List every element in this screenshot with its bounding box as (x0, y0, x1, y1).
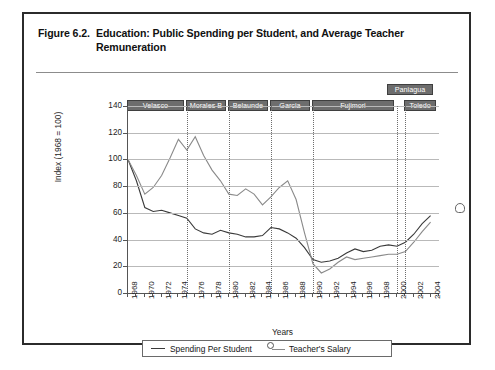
y-tick-label: 140 (94, 101, 122, 110)
legend-item-salary: Teacher's Salary (267, 343, 351, 356)
plot-area (127, 106, 439, 294)
y-tick-mark (123, 106, 127, 107)
line-swatch-icon (151, 348, 165, 349)
figure-title-text: Education: Public Spending per Student, … (96, 26, 446, 54)
x-tick-mark (362, 293, 363, 297)
chart-legend: Spending Per Student Teacher's Salary (142, 340, 392, 357)
gridline (128, 159, 439, 160)
x-tick-mark (379, 293, 380, 297)
x-tick-label: 1974 (180, 281, 189, 299)
y-tick-label: 60 (94, 208, 122, 217)
presidency-divider (187, 106, 188, 293)
x-tick-mark (278, 293, 279, 297)
x-tick-mark (413, 293, 414, 297)
x-tick-label: 2004 (433, 281, 442, 299)
x-axis-title: Years (127, 327, 438, 337)
figure-card: Figure 6.2.Education: Public Spending pe… (22, 12, 471, 345)
x-tick-label: 1982 (248, 281, 257, 299)
y-tick-mark (123, 213, 127, 214)
x-tick-label: 1996 (365, 281, 374, 299)
x-tick-mark (312, 293, 313, 297)
legend-label-spending: Spending Per Student (170, 344, 252, 354)
page-title: Figure 6.2.Education: Public Spending pe… (38, 26, 458, 54)
y-tick-mark (123, 266, 127, 267)
x-tick-mark (194, 293, 195, 297)
x-tick-label: 1998 (382, 281, 391, 299)
y-tick-mark (123, 293, 127, 294)
x-tick-mark (329, 293, 330, 297)
x-tick-mark (127, 293, 128, 297)
x-tick-label: 1972 (164, 281, 173, 299)
x-tick-label: 1992 (332, 281, 341, 299)
title-divider (36, 72, 458, 73)
y-tick-label: 20 (94, 261, 122, 270)
gridline (128, 106, 439, 107)
x-tick-mark (396, 293, 397, 297)
presidency-divider (229, 106, 230, 293)
presidency-divider (271, 106, 272, 293)
x-tick-mark (261, 293, 262, 297)
x-tick-label: 2002 (416, 281, 425, 299)
y-axis-title: Index (1968 = 100) (53, 87, 63, 207)
y-tick-label: 100 (94, 154, 122, 163)
x-tick-label: 1990 (315, 281, 324, 299)
presidency-divider (405, 106, 406, 293)
x-tick-mark (430, 293, 431, 297)
presidency-divider (397, 106, 398, 293)
y-axis-tick-labels: 020406080100120140 (90, 106, 122, 293)
x-tick-label: 1970 (147, 281, 156, 299)
x-tick-label: 1976 (197, 281, 206, 299)
x-tick-label: 1984 (264, 281, 273, 299)
y-tick-mark (123, 186, 127, 187)
x-tick-mark (144, 293, 145, 297)
x-tick-mark (346, 293, 347, 297)
circle-marker-icon (267, 345, 285, 354)
legend-label-salary: Teacher's Salary (289, 344, 351, 354)
presidency-divider (313, 106, 314, 293)
x-tick-mark (295, 293, 296, 297)
gridline (128, 186, 439, 187)
y-tick-label: 0 (94, 288, 122, 297)
teacher-salary-end-marker (455, 203, 465, 213)
y-tick-mark (123, 133, 127, 134)
x-tick-mark (245, 293, 246, 297)
president-band-paniagua: Paniagua (387, 84, 433, 95)
x-tick-mark (177, 293, 178, 297)
x-tick-label: 2000 (399, 281, 408, 299)
figure-number: Figure 6.2. (38, 26, 96, 40)
y-tick-mark (123, 159, 127, 160)
x-tick-mark (228, 293, 229, 297)
y-tick-mark (123, 240, 127, 241)
y-tick-label: 120 (94, 128, 122, 137)
series-line-teacher-s-salary (128, 137, 431, 273)
x-tick-label: 1988 (298, 281, 307, 299)
y-tick-label: 80 (94, 181, 122, 190)
series-line-spending-per-student (128, 159, 431, 262)
chart-lines (128, 106, 439, 293)
legend-item-spending: Spending Per Student (151, 343, 252, 356)
x-tick-label: 1986 (281, 281, 290, 299)
y-tick-label: 40 (94, 235, 122, 244)
gridline (128, 213, 439, 214)
gridline (128, 266, 439, 267)
x-tick-label: 1980 (231, 281, 240, 299)
x-tick-label: 1968 (130, 281, 139, 299)
x-tick-label: 1994 (349, 281, 358, 299)
x-tick-mark (211, 293, 212, 297)
x-tick-label: 1978 (214, 281, 223, 299)
x-tick-mark (161, 293, 162, 297)
gridline (128, 133, 439, 134)
gridline (128, 240, 439, 241)
